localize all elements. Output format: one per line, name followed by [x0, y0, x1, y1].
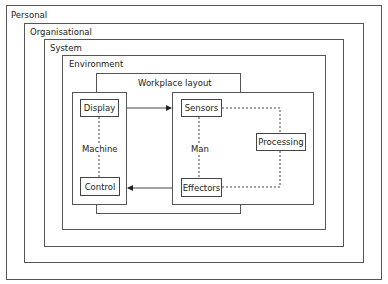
control-node: Control	[80, 177, 120, 196]
processing-node: Processing	[256, 133, 306, 151]
display-node: Display	[80, 99, 119, 117]
man-label: Man	[191, 144, 209, 154]
connector-lines	[0, 0, 388, 284]
sensors-node: Sensors	[181, 99, 222, 117]
effectors-node: Effectors	[181, 178, 222, 197]
machine-label: Machine	[82, 144, 118, 154]
